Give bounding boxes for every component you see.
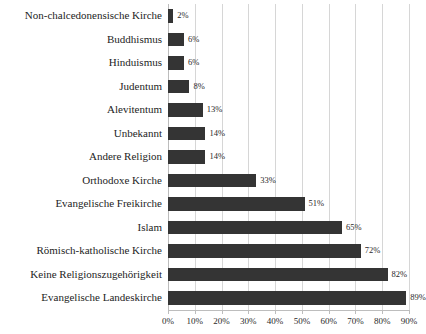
category-label: Evangelische Landeskirche <box>41 286 162 310</box>
bar <box>168 150 205 164</box>
bar <box>168 33 184 47</box>
x-tick-label: 30% <box>233 316 263 326</box>
bar-value-label: 72% <box>365 239 381 263</box>
tick-mark-10 <box>195 310 196 314</box>
bar-row: Römisch-katholische Kirche72% <box>0 239 426 263</box>
bar <box>168 291 406 305</box>
category-label: Römisch-katholische Kirche <box>36 239 162 263</box>
x-tick-label: 70% <box>340 316 370 326</box>
tick-mark-40 <box>275 310 276 314</box>
bar <box>168 127 205 141</box>
tick-mark-60 <box>329 310 330 314</box>
bar <box>168 80 189 94</box>
x-tick-label: 20% <box>207 316 237 326</box>
category-label: Andere Religion <box>89 145 162 169</box>
bar-row: Evangelische Freikirche51% <box>0 192 426 216</box>
x-tick-label: 40% <box>260 316 290 326</box>
bar-value-label: 13% <box>207 98 223 122</box>
tick-mark-50 <box>302 310 303 314</box>
tick-mark-80 <box>382 310 383 314</box>
x-axis-line <box>168 310 410 311</box>
x-tick-label: 50% <box>287 316 317 326</box>
category-label: Evangelische Freikirche <box>55 192 162 216</box>
bar-value-label: 65% <box>346 216 362 240</box>
bar <box>168 197 305 211</box>
tick-mark-90 <box>409 310 410 314</box>
bar <box>168 9 173 23</box>
category-label: Orthodoxe Kirche <box>82 169 162 193</box>
bar-value-label: 51% <box>309 192 325 216</box>
bar-row: Buddhismus6% <box>0 28 426 52</box>
bar-row: Orthodoxe Kirche33% <box>0 169 426 193</box>
bar <box>168 221 342 235</box>
bar-value-label: 82% <box>392 263 408 287</box>
bar-row: Unbekannt14% <box>0 122 426 146</box>
bar-chart: Non-chalcedonensische Kirche2%Buddhismus… <box>0 0 426 334</box>
category-label: Non-chalcedonensische Kirche <box>25 4 162 28</box>
bar-value-label: 2% <box>177 4 188 28</box>
x-tick-label: 90% <box>394 316 424 326</box>
bar-value-label: 14% <box>209 122 225 146</box>
tick-mark-0 <box>168 310 169 314</box>
bar-row: Non-chalcedonensische Kirche2% <box>0 4 426 28</box>
bar-row: Andere Religion14% <box>0 145 426 169</box>
tick-mark-20 <box>222 310 223 314</box>
bar <box>168 244 361 258</box>
category-label: Hinduismus <box>109 51 162 75</box>
tick-mark-70 <box>355 310 356 314</box>
category-label: Buddhismus <box>107 28 162 52</box>
bar-row: Keine Religionszugehörigkeit82% <box>0 263 426 287</box>
x-tick-label: 80% <box>367 316 397 326</box>
x-tick-label: 60% <box>314 316 344 326</box>
category-label: Alevitentum <box>107 98 162 122</box>
category-label: Unbekannt <box>114 122 162 146</box>
bar-value-label: 33% <box>260 169 276 193</box>
tick-mark-30 <box>248 310 249 314</box>
bar-row: Hinduismus6% <box>0 51 426 75</box>
bar-row: Judentum8% <box>0 75 426 99</box>
bar-value-label: 89% <box>410 286 426 310</box>
category-label: Islam <box>138 216 162 240</box>
bar <box>168 56 184 70</box>
x-tick-label: 10% <box>180 316 210 326</box>
category-label: Keine Religionszugehörigkeit <box>30 263 162 287</box>
category-label: Judentum <box>119 75 162 99</box>
bar-value-label: 8% <box>193 75 204 99</box>
bar <box>168 268 388 282</box>
x-tick-label: 0% <box>153 316 183 326</box>
bar <box>168 103 203 117</box>
bar-row: Evangelische Landeskirche89% <box>0 286 426 310</box>
bar-row: Alevitentum13% <box>0 98 426 122</box>
bar-value-label: 6% <box>188 28 199 52</box>
bar-value-label: 6% <box>188 51 199 75</box>
bar <box>168 174 256 188</box>
bar-row: Islam65% <box>0 216 426 240</box>
bar-value-label: 14% <box>209 145 225 169</box>
